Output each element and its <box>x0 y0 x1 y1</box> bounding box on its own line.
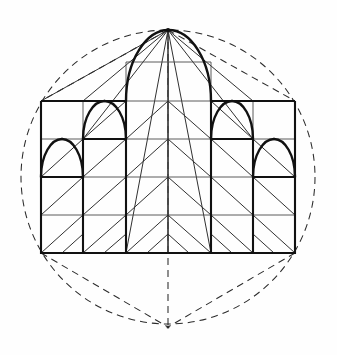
lattice-l-4 <box>83 215 126 253</box>
inner-right-lancet-arch <box>211 101 232 139</box>
inner-left-lancet-arch <box>83 101 105 139</box>
outer-left-lancet-arch <box>41 139 62 177</box>
lattice-r-1 <box>253 215 295 253</box>
lattice-l-7 <box>83 101 126 139</box>
lattice-b-2 <box>104 234 126 253</box>
lattice-r-11 <box>168 101 211 139</box>
lattice-l-5 <box>83 177 126 215</box>
apex-ray-fan <box>41 30 253 253</box>
lattice-r-6 <box>211 139 253 177</box>
central-lancet-arch <box>126 30 169 101</box>
lattice-r-4 <box>211 215 253 253</box>
lattice-r-9 <box>168 177 211 215</box>
lattice-b-1 <box>62 234 83 253</box>
lattice-b-3 <box>147 234 168 253</box>
apex-point <box>166 28 170 32</box>
hexagon-edge-lower-left <box>41 253 168 327</box>
hexagon-edge-lower-right <box>168 253 295 327</box>
lattice-b-5 <box>211 234 232 253</box>
outer-right-lancet-arch-right <box>274 139 295 177</box>
inner-right-lancet-arch-right <box>232 101 253 139</box>
lattice-b-6 <box>168 234 189 253</box>
lattice-r-2 <box>253 177 295 215</box>
outer-left-lancet-arch-right <box>62 139 83 177</box>
apex-ray-1 <box>41 30 168 101</box>
base-vertex-point <box>167 326 170 329</box>
lattice-l-1 <box>41 215 83 253</box>
gothic-facade-diagram <box>0 0 337 355</box>
figure-root: Elevation of a gothic west front inscrib… <box>0 0 337 355</box>
lattice-r-10 <box>168 139 211 177</box>
lattice-l-3 <box>41 139 83 177</box>
lattice-l-6 <box>83 139 126 177</box>
lattice-l-11 <box>126 101 168 139</box>
lattice-r-7 <box>211 101 253 139</box>
hexagon-edge-upper-right <box>168 30 295 101</box>
lattice-l-9 <box>126 177 168 215</box>
outer-right-lancet-arch <box>253 139 274 177</box>
lattice-r-3 <box>253 139 295 177</box>
lattice-l-2 <box>41 177 83 215</box>
lattice-b-4 <box>253 234 274 253</box>
lattice-r-5 <box>211 177 253 215</box>
lattice-l-10 <box>126 139 168 177</box>
